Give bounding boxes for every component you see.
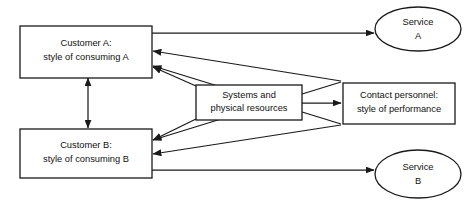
node-service-b[interactable]: Service B	[375, 150, 461, 198]
customer-a-label-line1: Customer A:	[60, 38, 111, 48]
node-contact-personnel[interactable]: Contact personnel: style of performance	[343, 83, 455, 124]
service-a-ellipse[interactable]	[375, 7, 461, 51]
edge-systems-to-customer-a	[153, 67, 196, 86]
service-b-label-line2: B	[415, 176, 421, 186]
edge-contact-personnel-to-customer-a	[153, 51, 341, 81]
node-customer-b[interactable]: Customer B: style of consuming B	[20, 129, 152, 178]
service-b-ellipse[interactable]	[375, 150, 461, 198]
node-customer-a[interactable]: Customer A: style of consuming A	[20, 26, 152, 78]
service-b-label-line1: Service	[402, 162, 433, 172]
diagram-svg: Customer A: style of consuming A Custome…	[0, 0, 476, 206]
diagram-canvas: Customer A: style of consuming A Custome…	[0, 0, 476, 206]
customer-a-label-line2: style of consuming A	[43, 52, 129, 62]
systems-resources-label-line1: Systems and	[222, 90, 276, 100]
systems-resources-label-line2: physical resources	[211, 103, 288, 113]
contact-personnel-label-line1: Contact personnel:	[360, 90, 438, 100]
node-systems-resources[interactable]: Systems and physical resources	[196, 85, 302, 120]
edge-systems-to-customer-b	[153, 119, 196, 140]
contact-personnel-label-line2: style of performance	[357, 104, 441, 114]
edge-contact-personnel-to-customer-b	[153, 125, 341, 154]
service-a-label-line1: Service	[402, 17, 433, 27]
customer-b-label-line1: Customer B:	[60, 140, 112, 150]
node-service-a[interactable]: Service A	[375, 7, 461, 51]
service-a-label-line2: A	[415, 31, 422, 41]
customer-b-label-line2: style of consuming B	[43, 154, 129, 164]
